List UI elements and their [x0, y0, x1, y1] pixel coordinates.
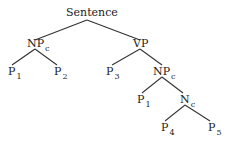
node-label: VP — [133, 37, 148, 50]
node-label: P — [8, 65, 15, 78]
node-subscript: 1 — [145, 100, 150, 109]
node-p5: P5 — [208, 122, 222, 133]
node-label: P — [106, 65, 113, 78]
node-p1-b: P1 — [137, 94, 151, 105]
edge-vp-npc — [140, 49, 162, 65]
syntax-tree-diagram: Sentence NPc VP P1 P2 P3 NPc P1 Nc P4 P5 — [0, 0, 232, 147]
node-p4: P4 — [161, 122, 175, 133]
node-subscript: 2 — [62, 72, 67, 81]
edge-nc-p4 — [165, 105, 185, 121]
node-sentence: Sentence — [66, 7, 118, 18]
edge-npc-p1b — [142, 77, 162, 93]
node-subscript: 3 — [114, 72, 119, 81]
node-subscript: c — [191, 100, 195, 109]
node-label: NP — [27, 37, 44, 50]
node-p2: P2 — [54, 66, 68, 77]
node-label: Sentence — [66, 6, 118, 19]
node-npc: NPc — [27, 38, 50, 49]
node-subscript: c — [45, 44, 49, 53]
node-p3: P3 — [106, 66, 120, 77]
edge-vp-p3 — [112, 49, 140, 65]
node-subscript: 1 — [16, 72, 21, 81]
node-subscript: 4 — [169, 128, 174, 137]
node-label: P — [161, 121, 168, 134]
node-label: NP — [153, 65, 170, 78]
node-subscript: 5 — [216, 128, 221, 137]
node-nc: Nc — [180, 94, 195, 105]
node-p1: P1 — [8, 66, 22, 77]
edge-nc-p5 — [185, 105, 210, 121]
node-npc-2: NPc — [153, 66, 176, 77]
node-subscript: c — [171, 72, 175, 81]
node-label: N — [180, 93, 190, 106]
node-label: P — [208, 121, 215, 134]
node-vp: VP — [133, 38, 148, 49]
node-label: P — [54, 65, 61, 78]
node-label: P — [137, 93, 144, 106]
edge-npc-p1 — [12, 49, 35, 65]
